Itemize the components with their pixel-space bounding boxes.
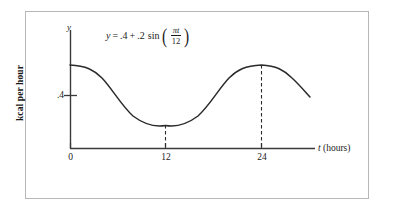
x-tick-label-24: 24: [254, 152, 270, 162]
equation-label: y = .4 + .2 sin ( πt 12 ): [106, 26, 191, 46]
y-tick-label-0.4: .4: [48, 90, 64, 100]
equation-equals: =: [112, 30, 118, 41]
fraction-denominator: 12: [172, 36, 181, 45]
close-paren: ): [184, 31, 189, 40]
x-tick-label-12: 12: [158, 152, 174, 162]
equation-amplitude: .2: [137, 30, 145, 41]
equation-plus: +: [130, 30, 136, 41]
x-axis-title: t (hours): [318, 143, 350, 153]
x-axis-unit: (hours): [323, 143, 350, 153]
equation-fraction: πt 12: [171, 26, 182, 46]
x-axis-symbol: t: [318, 143, 321, 153]
sinusoid-curve: [70, 65, 310, 126]
graph-plot: [0, 0, 394, 215]
equation-lhs: y: [106, 30, 110, 41]
fraction-numerator: πt: [171, 26, 182, 36]
y-axis-title: kcal per hour: [15, 48, 25, 138]
x-tick-label-0: 0: [64, 152, 77, 162]
open-paren: (: [163, 31, 168, 40]
equation-function: sin: [148, 30, 160, 41]
y-axis-symbol: y: [67, 22, 71, 32]
equation-intercept: .4: [120, 30, 128, 41]
